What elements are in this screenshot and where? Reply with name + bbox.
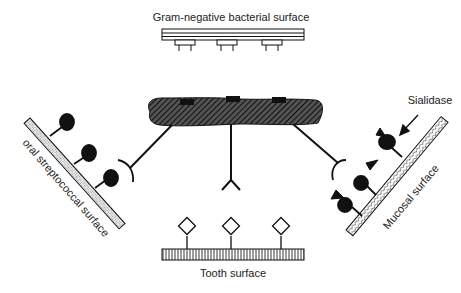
sialidase-label: Sialidase xyxy=(408,94,453,106)
sialidase-arrow xyxy=(400,115,418,135)
adhesin-block xyxy=(180,99,194,105)
adhesin-block xyxy=(272,97,286,103)
gram-negative-label: Gram-negative bacterial surface xyxy=(153,11,310,23)
tooth-surface: Tooth surface xyxy=(162,218,304,279)
mucosal-surface: Sialidase Mucosal surface xyxy=(331,94,452,236)
adhesin-block xyxy=(226,96,240,102)
mucosal-label: Mucosal surface xyxy=(380,162,441,231)
tooth-label: Tooth surface xyxy=(200,267,266,279)
central-bacterium xyxy=(149,96,323,126)
gram-negative-receptor xyxy=(217,40,237,51)
oral-strep-label: oral streptococcal surface xyxy=(20,136,111,238)
adhesin-stalks xyxy=(118,124,346,190)
gram-negative-receptor xyxy=(175,40,195,51)
gram-negative-receptor xyxy=(262,40,282,51)
oral-streptococcal-surface: oral streptococcal surface xyxy=(20,114,125,239)
gram-negative-surface xyxy=(162,29,304,51)
adhesion-diagram: Gram-negative bacterial surface xyxy=(0,0,461,293)
